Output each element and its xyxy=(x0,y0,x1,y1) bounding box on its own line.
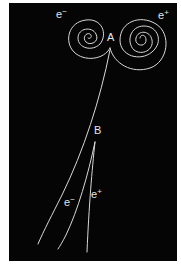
bottom-electron-label: e− xyxy=(64,195,75,208)
vertex-a-label: A xyxy=(107,31,115,43)
positron-spiral-track xyxy=(110,20,166,70)
primary-track-from-a xyxy=(38,50,110,244)
electron-spiral-track xyxy=(69,20,110,59)
top-electron-label: e− xyxy=(56,7,67,20)
particle-tracks-diagram: e− e+ A B e− e+ xyxy=(0,0,181,271)
bottom-positron-label: e+ xyxy=(91,187,102,200)
top-positron-label: e+ xyxy=(158,8,169,21)
vertex-b-label: B xyxy=(94,124,101,136)
